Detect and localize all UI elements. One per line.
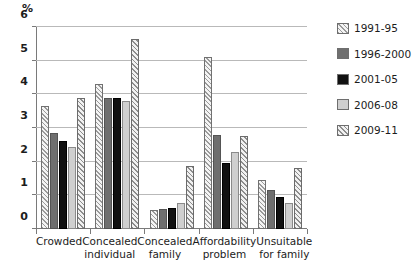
legend-swatch: [337, 48, 349, 59]
x-axis-tick-mark: [90, 229, 91, 234]
bar: [95, 84, 103, 229]
legend-item[interactable]: 2009-11: [337, 124, 415, 136]
x-axis-category-label-line: Affordability: [192, 235, 256, 248]
legend-swatch: [337, 74, 349, 85]
x-axis-category-label-line: for family: [256, 248, 312, 261]
bar: [240, 136, 248, 229]
x-axis-category-label: Affordabilityproblem: [192, 235, 256, 260]
bar: [68, 147, 76, 229]
bar: [267, 190, 275, 229]
bar: [231, 152, 239, 229]
bar: [41, 106, 49, 229]
legend-label: 2009-11: [354, 124, 398, 136]
legend-item[interactable]: 2006-08: [337, 99, 415, 111]
bar-group: [36, 27, 90, 229]
legend-label: 2006-08: [354, 99, 398, 111]
x-axis-category-label-line: Unsuitable: [256, 235, 312, 248]
bar-groups: [36, 27, 307, 229]
bar: [122, 101, 130, 229]
bar: [150, 210, 158, 229]
legend-swatch: [337, 125, 349, 136]
y-axis-tick-label: 0: [20, 210, 28, 223]
bar: [168, 208, 176, 229]
legend-label: 1996-2000: [354, 48, 411, 60]
x-axis-category-label-line: family: [137, 248, 192, 261]
legend-label: 2001-05: [354, 73, 398, 85]
bar-chart: % 0123456 CrowdedConcealedindividualConc…: [0, 0, 417, 277]
y-axis-tick-label: 2: [20, 142, 28, 155]
bar-group: [90, 27, 144, 229]
legend-item[interactable]: 1996-2000: [337, 48, 415, 60]
legend-item[interactable]: 2001-05: [337, 73, 415, 85]
y-axis-tick-label: 5: [20, 41, 28, 54]
x-axis-category-label-line: individual: [82, 248, 137, 261]
bar-group: [199, 27, 253, 229]
bar: [186, 166, 194, 229]
y-axis-tick-label: 3: [20, 109, 28, 122]
legend-swatch: [337, 99, 349, 110]
plot-area: 0123456: [36, 27, 307, 229]
bar: [285, 203, 293, 229]
x-axis-category-label-line: Concealed: [137, 235, 192, 248]
bar: [159, 209, 167, 229]
y-axis-tick-label: 1: [20, 176, 28, 189]
x-axis-tick-mark: [253, 229, 254, 234]
legend: 1991-951996-20002001-052006-082009-11: [337, 22, 415, 150]
x-axis-category-label: Unsuitablefor family: [256, 235, 312, 260]
y-axis-tick-label: 4: [20, 75, 28, 88]
bar: [204, 57, 212, 229]
bar: [104, 98, 112, 229]
x-axis-category-label: Concealedfamily: [137, 235, 192, 260]
x-axis-tick-mark: [36, 229, 37, 234]
bar: [222, 163, 230, 229]
x-axis-tick-mark: [144, 229, 145, 234]
x-axis-tick-mark: [307, 229, 308, 234]
legend-swatch: [337, 23, 349, 34]
bar: [131, 39, 139, 229]
bar: [113, 98, 121, 229]
bar-group: [253, 27, 307, 229]
bar-group: [144, 27, 198, 229]
x-axis-category-label-line: problem: [192, 248, 256, 261]
bar: [77, 98, 85, 229]
x-axis-labels: CrowdedConcealedindividualConcealedfamil…: [36, 235, 307, 260]
bar: [59, 141, 67, 229]
bar: [294, 168, 302, 229]
x-axis-category-label: Concealedindividual: [82, 235, 137, 260]
bar: [276, 197, 284, 229]
x-axis-category-label-line: Concealed: [82, 235, 137, 248]
bar: [213, 135, 221, 229]
x-axis-category-label-line: Crowded: [36, 235, 82, 248]
bar: [177, 203, 185, 229]
legend-item[interactable]: 1991-95: [337, 22, 415, 34]
y-axis-tick-label: 6: [20, 8, 28, 21]
bar: [258, 180, 266, 229]
bar: [50, 133, 58, 229]
x-axis-category-label: Crowded: [36, 235, 82, 260]
legend-label: 1991-95: [354, 22, 398, 34]
x-axis-tick-mark: [199, 229, 200, 234]
